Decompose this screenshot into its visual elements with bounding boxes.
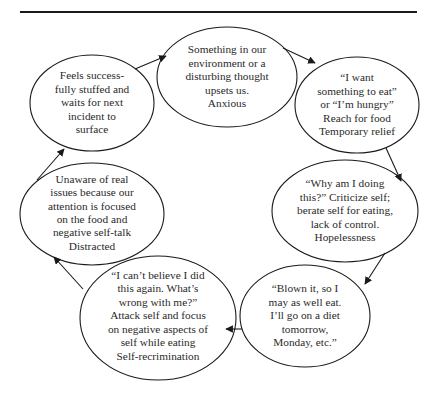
node-attack-self-text: “I can’t believe I did this again. What’… [108, 269, 208, 363]
node-attack-self: “I can’t believe I did this again. What’… [88, 265, 228, 367]
node-trigger-text: Something in our environment or a distur… [185, 43, 268, 110]
node-urge: “I want something to eat” or “I’m hungry… [301, 62, 413, 148]
node-distracted-text: Unaware of real issues because our atten… [48, 173, 136, 253]
node-blown-it: “Blown it, so I may as well eat. I’ll go… [246, 272, 364, 360]
node-criticize-text: “Why am I doing this?” Criticize self; b… [297, 177, 393, 244]
node-blown-it-text: “Blown it, so I may as well eat. I’ll go… [269, 282, 342, 349]
node-stuffed-text: Feels success- fully stuffed and waits f… [55, 69, 129, 136]
node-urge-text: “I want something to eat” or “I’m hungry… [317, 71, 397, 138]
node-criticize: “Why am I doing this?” Criticize self; b… [280, 168, 410, 254]
node-trigger: Something in our environment or a distur… [165, 35, 289, 119]
node-stuffed: Feels success- fully stuffed and waits f… [36, 60, 148, 146]
node-distracted: Unaware of real issues because our atten… [26, 170, 158, 256]
